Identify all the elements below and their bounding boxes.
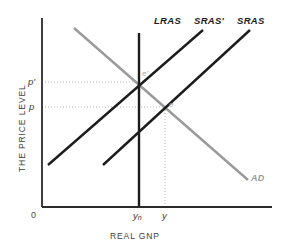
sras-label: SRAS: [237, 16, 265, 26]
aggregate-supply-demand-chart: LRAS SRAS' SRAS AD e' e p' p yn y 0 REAL…: [0, 0, 284, 250]
equilibrium-label-e-prime: e': [142, 70, 148, 78]
lras-label: LRAS: [154, 16, 181, 26]
y-axis-title: THE PRICE LEVEL: [18, 84, 27, 172]
y-tick-label-p-prime: p': [28, 77, 35, 87]
x-axis-title: REAL GNP: [110, 232, 160, 241]
x-tick-label-y: y: [162, 211, 167, 221]
x-tick-label-yn: yn: [133, 211, 142, 221]
equilibrium-label-e: e: [169, 101, 173, 109]
x-tick-yn-subscript: n: [138, 214, 142, 221]
sras-prime-label: SRAS': [194, 16, 224, 26]
origin-label: 0: [31, 211, 36, 220]
y-tick-label-p: p: [29, 102, 34, 112]
chart-canvas: [0, 0, 284, 250]
ad-curve: [74, 28, 248, 180]
ad-label: AD: [251, 174, 265, 183]
